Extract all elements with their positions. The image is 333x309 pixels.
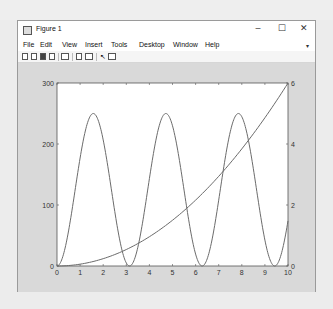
svg-text:0: 0 xyxy=(55,269,59,276)
svg-text:0: 0 xyxy=(50,263,54,270)
svg-text:100: 100 xyxy=(42,202,54,209)
svg-text:2: 2 xyxy=(101,269,105,276)
svg-text:9: 9 xyxy=(263,269,267,276)
svg-text:2: 2 xyxy=(291,202,295,209)
svg-text:6: 6 xyxy=(194,269,198,276)
svg-text:4: 4 xyxy=(291,141,295,148)
svg-text:8: 8 xyxy=(240,269,244,276)
svg-text:4: 4 xyxy=(147,269,151,276)
svg-text:300: 300 xyxy=(42,80,54,87)
svg-text:10: 10 xyxy=(284,269,292,276)
svg-text:200: 200 xyxy=(42,141,54,148)
svg-text:6: 6 xyxy=(291,80,295,87)
y-axis-left: 0100200300 xyxy=(42,80,59,270)
svg-text:5: 5 xyxy=(171,269,175,276)
svg-text:0: 0 xyxy=(291,263,295,270)
svg-text:3: 3 xyxy=(124,269,128,276)
svg-text:7: 7 xyxy=(217,269,221,276)
svg-text:1: 1 xyxy=(78,269,82,276)
plot-axes[interactable]: 012345678910 0100200300 0246 xyxy=(0,0,333,309)
